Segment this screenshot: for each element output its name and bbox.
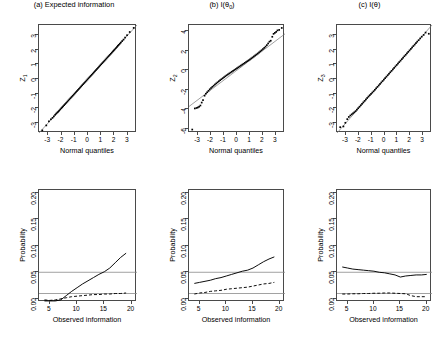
panel-b-point	[281, 27, 283, 29]
panel-c-point	[348, 116, 350, 118]
panel-a-ytick-label: 2	[30, 49, 37, 53]
panel-c-xtick-mark	[409, 132, 410, 135]
panel-b-xtick-mark	[236, 132, 237, 135]
panel-f-ytick-label: 0.10	[328, 245, 335, 258]
panel-a-ytick-label: -2	[30, 107, 37, 113]
panel-b-point	[267, 43, 269, 45]
panel-f-plot-area	[336, 189, 431, 301]
panel-c-ytick-label: -3	[328, 122, 335, 128]
panel-c-point	[414, 44, 416, 46]
panel-c-point	[366, 97, 368, 99]
panel-c-point	[388, 73, 390, 75]
panel-c-point	[397, 63, 399, 65]
panel-c-point	[339, 126, 341, 128]
panel-c-point	[375, 87, 377, 89]
panel-c-point	[379, 83, 381, 85]
panel-b-ylabel: Z2	[168, 74, 178, 81]
panel-e-ytick-label: 0.15	[180, 218, 187, 231]
panel-c-xtick-label: -3	[342, 136, 348, 143]
panel-c-point	[406, 52, 408, 54]
panel-b-xtick-label: 3	[273, 136, 277, 143]
panel-b-ytick-label: -4	[180, 108, 187, 114]
panel-d-xtick-label: 10	[72, 305, 79, 312]
panel-f-xtick-mark	[426, 301, 427, 304]
panel-f-xtick-label: 10	[369, 305, 376, 312]
panel-b-xtick-mark	[223, 132, 224, 135]
panel-d-ytick-label: 0.00	[30, 298, 37, 311]
panel-b-xtick-label: 1	[247, 136, 251, 143]
panel-d-xlabel: Observed information	[38, 315, 136, 324]
panel-c-point	[416, 41, 418, 43]
panel-b-point	[265, 46, 267, 48]
panel-d-canvas	[39, 190, 137, 302]
panel-a-xtick-label: -2	[58, 136, 64, 143]
panel-c-point	[387, 74, 389, 76]
panel-c: (c) I(θˆ)-3-2-10123-3-2-10123Normal quan…	[296, 0, 443, 168]
panel-c-ylabel: Z3	[316, 74, 326, 81]
panel-c-point	[382, 80, 384, 82]
panel-b-point	[191, 129, 193, 131]
panel-c-point	[409, 50, 411, 52]
panel-b-point	[275, 31, 277, 33]
panel-b-title: (b) I(θ0)	[148, 0, 296, 10]
panel-d-ylabel: Probability	[18, 228, 27, 262]
panel-c-point	[421, 36, 423, 38]
panel-c-ytick-label: 0	[328, 78, 335, 82]
panel-e-ytick-label: 0.05	[180, 271, 187, 284]
panel-f-ytick-label: 0.20	[328, 192, 335, 205]
panel-e-xtick-label: 10	[222, 305, 229, 312]
panel-a-point	[41, 130, 43, 132]
panel-a-point	[120, 42, 122, 44]
panel-d-xtick-mark	[49, 301, 50, 304]
panel-d-ytick-label: 0.15	[30, 218, 37, 231]
panel-f-ytick-label: 0.15	[328, 218, 335, 231]
panel-c-point	[398, 61, 400, 63]
panel-b-point	[200, 105, 202, 107]
panel-d-plot-area	[38, 189, 136, 301]
panel-b-xtick-label: -3	[194, 136, 200, 143]
panel-e-xtick-label: 20	[275, 305, 282, 312]
panel-c-point	[373, 90, 375, 92]
panel-b-xtick-mark	[249, 132, 250, 135]
panel-c-point	[359, 106, 361, 108]
panel-c-xtick-mark	[384, 132, 385, 135]
panel-f-xtick-label: 20	[422, 305, 429, 312]
panel-e-xtick-mark	[279, 301, 280, 304]
panel-c-point	[355, 110, 357, 112]
panel-c-xtick-label: 1	[394, 136, 398, 143]
panel-c-point	[362, 102, 364, 104]
panel-d-xtick-mark	[131, 301, 132, 304]
panel-d-xtick-mark	[76, 301, 77, 304]
panel-a-xtick-mark	[47, 132, 48, 135]
panel-b-point	[194, 108, 196, 110]
figure-panel-grid: (a) Expected information-3-2-10123-3-2-1…	[0, 0, 443, 350]
panel-c-point	[418, 39, 420, 41]
panel-a-canvas	[39, 25, 137, 133]
panel-c-point	[386, 76, 388, 78]
panel-c-point	[383, 79, 385, 81]
panel-a-ytick-label: -1	[30, 93, 37, 99]
panel-b-point	[202, 99, 204, 101]
panel-a-xtick-mark	[74, 132, 75, 135]
panel-f-xtick-label: 5	[345, 305, 349, 312]
panel-a-xtick-label: 1	[98, 136, 102, 143]
panel-a-point	[45, 125, 47, 127]
panel-a-xtick-mark	[127, 132, 128, 135]
panel-d-ytick-label: 0.10	[30, 245, 37, 258]
panel-c-point	[361, 103, 363, 105]
panel-a-xtick-mark	[61, 132, 62, 135]
panel-b-point	[271, 36, 273, 38]
panel-d-xtick-label: 20	[127, 305, 134, 312]
panel-a-ytick-label: 1	[30, 63, 37, 67]
panel-b-xlabel: Normal quantiles	[188, 146, 284, 155]
panel-c-point	[402, 57, 404, 59]
panel-e-ytick-label: 0.00	[180, 298, 187, 311]
panel-f-ytick-label: 0.05	[328, 271, 335, 284]
panel-b-point	[270, 40, 272, 42]
panel-c-ytick-label: -2	[328, 107, 335, 113]
panel-a-point	[133, 27, 135, 29]
panel-c-xtick-label: 0	[382, 136, 386, 143]
panel-b-xtick-mark	[197, 132, 198, 135]
panel-c-point	[425, 32, 427, 34]
panel-a-title: (a) Expected information	[0, 0, 148, 9]
